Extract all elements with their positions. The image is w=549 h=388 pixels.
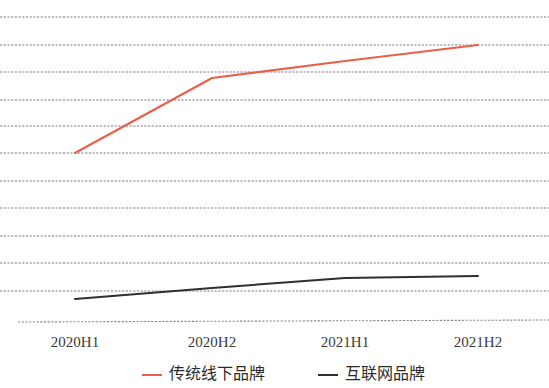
legend-swatch-icon-traditional-offline-brand <box>142 374 162 376</box>
chart-legend: 传统线下品牌 互联网品牌 <box>0 364 549 388</box>
legend-entry-internet-brand: 互联网品牌 <box>318 366 425 382</box>
chart-figure: 2020H1 2020H2 2021H1 2021H2 传统线下品牌 互联网品牌 <box>0 0 549 388</box>
x-tick-label-2020h1: 2020H1 <box>51 334 99 351</box>
series-line-traditional-offline-brand <box>75 45 478 153</box>
x-tick-label-2021h2: 2021H2 <box>454 334 502 351</box>
x-axis-tick-labels: 2020H1 2020H2 2021H1 2021H2 <box>0 334 549 358</box>
legend-entry-traditional-offline-brand: 传统线下品牌 <box>142 366 265 382</box>
legend-label-traditional-offline-brand: 传统线下品牌 <box>169 366 265 382</box>
x-axis-line <box>18 320 549 322</box>
legend-label-internet-brand: 互联网品牌 <box>345 366 425 382</box>
gridlines <box>0 17 549 291</box>
legend-swatch-icon-internet-brand <box>318 374 338 376</box>
series-line-internet-brand <box>75 276 478 299</box>
line-chart-plot <box>0 0 549 388</box>
x-tick-label-2020h2: 2020H2 <box>188 334 236 351</box>
x-tick-label-2021h1: 2021H1 <box>321 334 369 351</box>
